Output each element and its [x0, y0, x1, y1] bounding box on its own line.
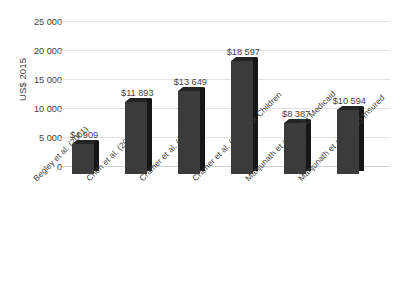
bar-value-label: $18 597 [227, 47, 260, 57]
y-tick-label: 10 000 [14, 104, 62, 114]
y-tick-label: 15 000 [14, 75, 62, 85]
y-tick-label: 5 000 [14, 133, 62, 143]
bar-value-label: $11 893 [121, 88, 154, 98]
bar-chart: US$ 2015 25 000 20 000 15 000 10 000 5 0… [0, 0, 401, 300]
bar-value-label: $10 594 [333, 96, 366, 106]
y-tick-label: 20 000 [14, 46, 62, 56]
bar-side-face [200, 88, 205, 171]
bar-value-label: $13 649 [174, 77, 207, 87]
y-tick-label: 25 000 [14, 17, 62, 27]
x-axis-tick-labels: Begley et al. (2001) Chen et al. (2013) … [0, 176, 401, 300]
